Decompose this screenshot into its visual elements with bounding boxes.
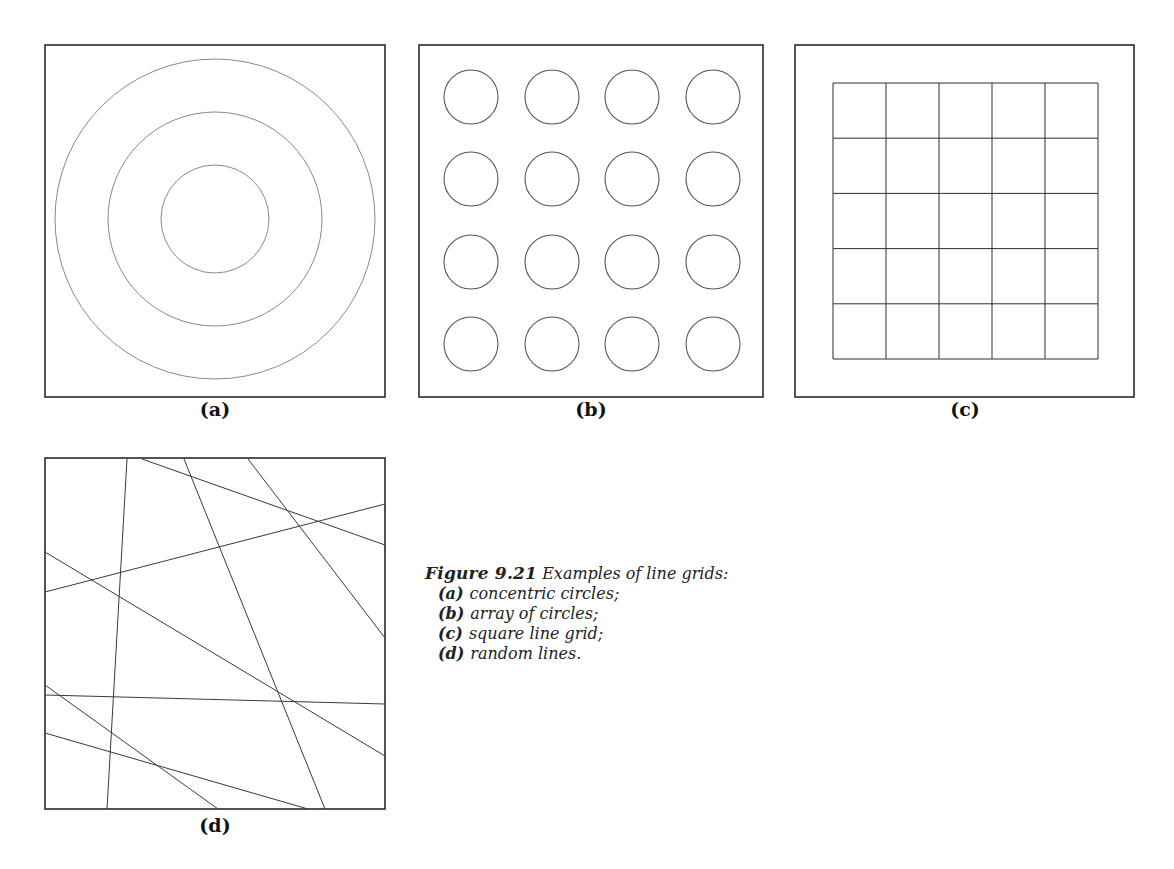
panel-c-frame (795, 45, 1134, 397)
array-circle (686, 317, 740, 371)
panel-b-label: (b) (575, 398, 606, 420)
array-circle (605, 317, 659, 371)
panel-d-label: (d) (199, 814, 230, 836)
array-circle (605, 152, 659, 206)
panel-a-concentric-circles (45, 45, 385, 397)
caption-item-key: (c) (438, 624, 463, 643)
array-circle (444, 235, 498, 289)
random-line (184, 459, 325, 809)
panel-b-frame (419, 45, 763, 397)
array-circle (525, 70, 579, 124)
panel-d-random-lines (45, 458, 385, 809)
random-line (45, 504, 385, 592)
caption-item-text: concentric circles; (470, 584, 620, 603)
panel-a-label: (a) (200, 398, 230, 420)
array-circle (605, 235, 659, 289)
panel-c-square-line-grid (795, 45, 1134, 397)
caption-item: (c)square line grid; (425, 624, 728, 644)
panel-b-array-of-circles (419, 45, 763, 397)
array-circle (525, 235, 579, 289)
figure-title: Examples of line grids: (542, 564, 728, 583)
caption-item-key: (b) (438, 604, 464, 623)
caption-item-key: (a) (438, 584, 464, 603)
random-line (107, 459, 127, 809)
array-circle (686, 235, 740, 289)
array-circle (444, 152, 498, 206)
figure-caption: Figure 9.21 Examples of line grids: (a)c… (425, 563, 728, 664)
array-circle (525, 152, 579, 206)
caption-item: (b)array of circles; (425, 604, 728, 624)
caption-item: (a)concentric circles; (425, 584, 728, 604)
caption-item: (d)random lines. (425, 644, 728, 664)
caption-item-text: random lines. (470, 644, 581, 663)
array-circle (605, 70, 659, 124)
random-line (248, 459, 385, 638)
panel-a-frame (45, 45, 385, 397)
array-circle (686, 70, 740, 124)
random-line (45, 733, 308, 809)
panel-d-frame (45, 458, 385, 809)
caption-item-key: (d) (438, 644, 464, 663)
concentric-circle (55, 59, 375, 379)
array-circle (444, 317, 498, 371)
concentric-circle (108, 112, 322, 326)
array-circle (525, 317, 579, 371)
random-line (45, 695, 385, 704)
figure-number: Figure 9.21 (425, 563, 537, 583)
random-line (45, 552, 385, 756)
array-circle (444, 70, 498, 124)
random-line (142, 459, 385, 545)
array-circle (686, 152, 740, 206)
caption-item-text: array of circles; (470, 604, 598, 623)
random-line (45, 685, 218, 809)
figure-canvas (0, 0, 1174, 869)
caption-title-line: Figure 9.21 Examples of line grids: (425, 563, 728, 584)
panel-c-label: (c) (950, 398, 980, 420)
concentric-circle (161, 165, 269, 273)
caption-item-text: square line grid; (469, 624, 603, 643)
